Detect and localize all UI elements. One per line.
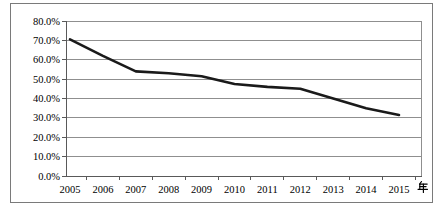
x-tick-label: 2007	[125, 184, 146, 195]
x-tick-label: 2013	[323, 184, 344, 195]
y-tick-label: 20.0%	[33, 132, 60, 143]
y-tick-label: 0.0%	[38, 171, 60, 182]
x-tick-label: 2005	[60, 184, 81, 195]
y-tick-label: 10.0%	[33, 151, 60, 162]
x-tick-label: 2015	[389, 184, 410, 195]
x-tick-label: 2014	[356, 184, 378, 195]
y-tick-label: 80.0%	[33, 16, 60, 27]
x-tick-label: 2009	[191, 184, 212, 195]
figure-border	[11, 4, 433, 203]
y-tick-label: 30.0%	[33, 112, 60, 123]
x-tick-label: 2011	[257, 184, 278, 195]
line-chart: 0.0%10.0%20.0%30.0%40.0%50.0%60.0%70.0%8…	[0, 0, 438, 210]
x-tick-label: 2012	[290, 184, 311, 195]
y-tick-label: 60.0%	[33, 54, 60, 65]
y-tick-label: 70.0%	[33, 35, 60, 46]
x-tick-label: 2008	[158, 184, 179, 195]
x-tick-label: 2010	[224, 184, 245, 195]
chart-figure: 0.0%10.0%20.0%30.0%40.0%50.0%60.0%70.0%8…	[0, 0, 438, 210]
x-tick-label: 2006	[92, 184, 113, 195]
y-tick-label: 50.0%	[33, 74, 60, 85]
y-tick-label: 40.0%	[33, 93, 60, 104]
